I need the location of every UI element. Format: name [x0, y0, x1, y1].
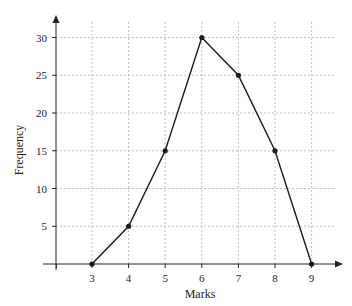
- y-tick-labels: 51015202530: [36, 32, 56, 233]
- data-point-marker: [163, 148, 168, 153]
- y-tick-label: 20: [36, 107, 48, 119]
- x-tick-label: 4: [126, 272, 132, 284]
- data-point-marker: [236, 73, 241, 78]
- x-tick-labels: 3456789: [56, 264, 314, 284]
- x-tick-label: 6: [199, 272, 205, 284]
- x-tick-label: 8: [272, 272, 278, 284]
- y-tick-label: 5: [42, 220, 48, 232]
- y-axis-label: Frequency: [12, 125, 26, 176]
- x-tick-label: 5: [162, 272, 168, 284]
- y-tick-label: 15: [36, 145, 48, 157]
- y-tick-label: 25: [36, 69, 48, 81]
- y-tick-label: 10: [36, 183, 48, 195]
- data-point-marker: [89, 261, 94, 266]
- y-tick-label: 30: [36, 32, 48, 44]
- gridlines: [56, 22, 336, 264]
- data-point-marker: [199, 35, 204, 40]
- x-axis-arrow-icon: [335, 261, 343, 268]
- axes: [43, 15, 343, 270]
- x-tick-label: 3: [89, 272, 95, 284]
- data-point-marker: [126, 224, 131, 229]
- frequency-polygon-chart: 3456789 51015202530 Marks Frequency: [0, 0, 352, 306]
- x-tick-label: 9: [309, 272, 315, 284]
- data-point-marker: [309, 261, 314, 266]
- x-tick-label: 7: [236, 272, 242, 284]
- y-axis-arrow-icon: [53, 15, 60, 23]
- data-point-marker: [272, 148, 277, 153]
- x-axis-label: Marks: [185, 287, 216, 301]
